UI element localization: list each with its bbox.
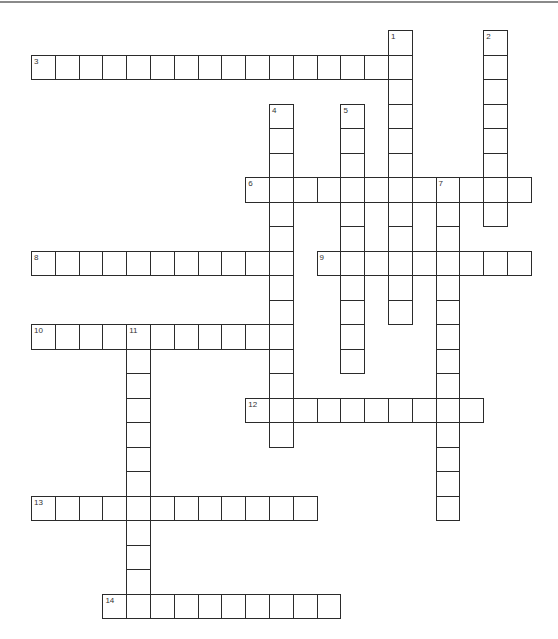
crossword-cell[interactable] <box>269 55 294 81</box>
crossword-cell[interactable] <box>317 55 342 81</box>
crossword-cell[interactable] <box>388 153 413 179</box>
crossword-cell[interactable]: 10 <box>31 324 56 350</box>
crossword-cell[interactable] <box>79 496 104 522</box>
crossword-cell[interactable]: 4 <box>269 104 294 130</box>
crossword-cell[interactable] <box>79 251 104 277</box>
crossword-cell[interactable] <box>459 398 484 424</box>
crossword-cell[interactable]: 3 <box>31 55 56 81</box>
crossword-cell[interactable] <box>340 300 365 326</box>
crossword-cell[interactable] <box>388 55 413 81</box>
crossword-cell[interactable] <box>388 202 413 228</box>
crossword-cell[interactable] <box>150 55 175 81</box>
crossword-cell[interactable] <box>483 55 508 81</box>
crossword-cell[interactable] <box>126 373 151 399</box>
crossword-cell[interactable] <box>412 251 437 277</box>
crossword-cell[interactable] <box>388 398 413 424</box>
crossword-cell[interactable] <box>79 55 104 81</box>
crossword-cell[interactable] <box>245 594 270 620</box>
crossword-cell[interactable] <box>174 496 199 522</box>
crossword-cell[interactable] <box>340 128 365 154</box>
crossword-cell[interactable] <box>198 251 223 277</box>
crossword-cell[interactable] <box>459 177 484 203</box>
crossword-cell[interactable] <box>412 177 437 203</box>
crossword-cell[interactable] <box>221 55 246 81</box>
crossword-cell[interactable] <box>55 55 80 81</box>
crossword-cell[interactable] <box>245 324 270 350</box>
crossword-cell[interactable] <box>293 55 318 81</box>
crossword-cell[interactable] <box>126 398 151 424</box>
crossword-cell[interactable] <box>269 398 294 424</box>
crossword-cell[interactable] <box>388 275 413 301</box>
crossword-cell[interactable] <box>126 545 151 571</box>
crossword-cell[interactable] <box>388 79 413 105</box>
crossword-cell[interactable] <box>436 275 461 301</box>
crossword-cell[interactable] <box>483 251 508 277</box>
crossword-cell[interactable] <box>150 251 175 277</box>
crossword-cell[interactable] <box>364 251 389 277</box>
crossword-cell[interactable] <box>174 251 199 277</box>
crossword-cell[interactable] <box>269 251 294 277</box>
crossword-cell[interactable] <box>126 471 151 497</box>
crossword-cell[interactable] <box>126 520 151 546</box>
crossword-cell[interactable] <box>269 324 294 350</box>
crossword-cell[interactable] <box>126 569 151 595</box>
crossword-cell[interactable] <box>269 128 294 154</box>
crossword-cell[interactable] <box>198 324 223 350</box>
crossword-cell[interactable] <box>269 594 294 620</box>
crossword-cell[interactable] <box>340 55 365 81</box>
crossword-cell[interactable] <box>388 128 413 154</box>
crossword-cell[interactable] <box>150 496 175 522</box>
crossword-cell[interactable] <box>340 398 365 424</box>
crossword-cell[interactable] <box>507 177 532 203</box>
crossword-cell[interactable] <box>55 324 80 350</box>
crossword-cell[interactable] <box>483 202 508 228</box>
crossword-cell[interactable] <box>483 177 508 203</box>
crossword-cell[interactable]: 13 <box>31 496 56 522</box>
crossword-cell[interactable] <box>221 496 246 522</box>
crossword-cell[interactable] <box>150 594 175 620</box>
crossword-cell[interactable] <box>55 251 80 277</box>
crossword-cell[interactable] <box>269 177 294 203</box>
crossword-cell[interactable] <box>221 594 246 620</box>
crossword-cell[interactable] <box>388 104 413 130</box>
crossword-cell[interactable] <box>388 251 413 277</box>
crossword-cell[interactable] <box>221 251 246 277</box>
crossword-cell[interactable]: 11 <box>126 324 151 350</box>
crossword-cell[interactable]: 7 <box>436 177 461 203</box>
crossword-cell[interactable] <box>269 202 294 228</box>
crossword-cell[interactable] <box>483 104 508 130</box>
crossword-cell[interactable] <box>507 251 532 277</box>
crossword-cell[interactable] <box>317 594 342 620</box>
crossword-cell[interactable] <box>436 202 461 228</box>
crossword-cell[interactable] <box>293 496 318 522</box>
crossword-cell[interactable] <box>436 373 461 399</box>
crossword-cell[interactable] <box>483 79 508 105</box>
crossword-cell[interactable] <box>198 496 223 522</box>
crossword-cell[interactable] <box>126 496 151 522</box>
crossword-cell[interactable] <box>483 153 508 179</box>
crossword-cell[interactable] <box>388 226 413 252</box>
crossword-cell[interactable] <box>436 447 461 473</box>
crossword-cell[interactable] <box>459 251 484 277</box>
crossword-cell[interactable] <box>364 177 389 203</box>
crossword-cell[interactable] <box>126 55 151 81</box>
crossword-cell[interactable] <box>269 226 294 252</box>
crossword-cell[interactable] <box>340 251 365 277</box>
crossword-cell[interactable]: 1 <box>388 30 413 56</box>
crossword-cell[interactable] <box>174 324 199 350</box>
crossword-cell[interactable] <box>436 324 461 350</box>
crossword-cell[interactable] <box>436 349 461 375</box>
crossword-cell[interactable] <box>340 324 365 350</box>
crossword-cell[interactable] <box>126 594 151 620</box>
crossword-cell[interactable] <box>150 324 175 350</box>
crossword-cell[interactable] <box>293 594 318 620</box>
crossword-cell[interactable] <box>436 471 461 497</box>
crossword-cell[interactable] <box>388 300 413 326</box>
crossword-cell[interactable] <box>340 226 365 252</box>
crossword-cell[interactable] <box>174 594 199 620</box>
crossword-cell[interactable] <box>340 153 365 179</box>
crossword-cell[interactable] <box>55 496 80 522</box>
crossword-cell[interactable] <box>102 496 127 522</box>
crossword-cell[interactable]: 2 <box>483 30 508 56</box>
crossword-cell[interactable] <box>317 398 342 424</box>
